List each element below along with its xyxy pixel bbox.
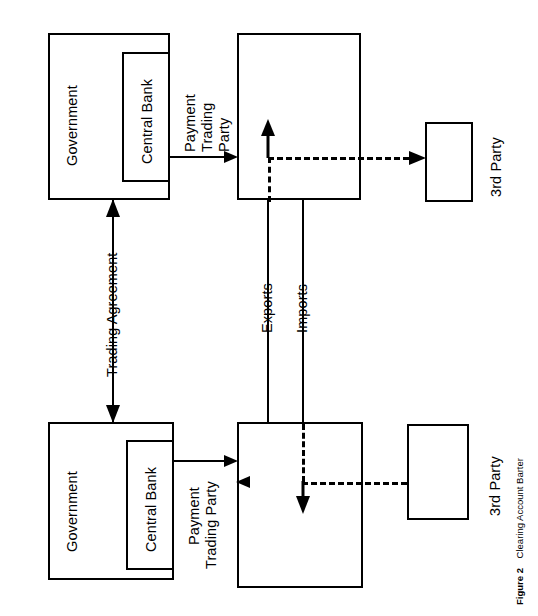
- central-bank-label-bottom: Central Bank: [143, 467, 159, 552]
- third-party-label-bottom: 3rd Party: [487, 456, 503, 516]
- trading-party-box-bottom: [237, 422, 363, 588]
- imports-label: Imports: [294, 284, 310, 333]
- payment-label-top-line1: Payment: [182, 94, 199, 152]
- exports-label: Exports: [259, 283, 275, 333]
- payment-label-bottom-line1: Payment: [186, 487, 203, 545]
- figure-canvas: Government Central Bank 3rd Party Paymen…: [0, 0, 538, 616]
- figure-caption: Figure 2 Clearing Account Barter: [514, 458, 525, 605]
- third-party-dashed-vertical-bottom: [302, 424, 305, 482]
- third-party-box-top: [425, 122, 473, 202]
- payment-connector-bottom: [174, 460, 230, 462]
- government-label-top: Government: [64, 85, 80, 166]
- central-bank-label-top: Central Bank: [139, 79, 155, 164]
- payment-label-top-line3: Party: [216, 118, 233, 152]
- trading-party-box-top: [237, 33, 361, 200]
- third-party-label-top: 3rd Party: [488, 137, 504, 197]
- third-party-dashed-horizontal-top: [268, 157, 418, 160]
- figure-caption-text: Clearing Account Barter: [514, 458, 525, 558]
- third-party-dashed-horizontal-bottom: [302, 482, 407, 485]
- figure-number: Figure 2: [514, 568, 525, 605]
- payment-label-bottom-line2: Trading Party: [203, 481, 220, 569]
- government-label-bottom: Government: [64, 471, 80, 552]
- payment-label-top-line2: Trading: [199, 103, 216, 152]
- third-party-box-bottom: [407, 424, 469, 520]
- payment-connector-top: [170, 156, 230, 158]
- trading-agreement-label: Trading Agreement: [104, 253, 120, 377]
- third-party-dashed-vertical-top: [268, 157, 271, 202]
